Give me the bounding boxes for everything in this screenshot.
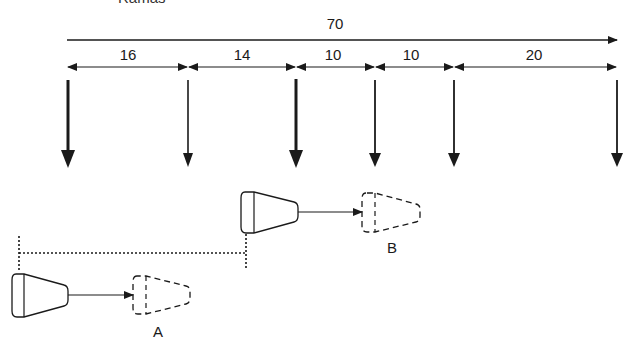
down-arrow-6 [611, 80, 623, 167]
position-a-label: A [153, 323, 163, 340]
load-arrows [61, 79, 623, 168]
down-arrow-2 [183, 80, 193, 167]
segment-label-5: 20 [526, 46, 543, 63]
segment-label-1: 16 [120, 46, 137, 63]
total-length-label: 70 [327, 15, 344, 32]
cup-dashed-b [362, 193, 420, 232]
cup-dashed-a [133, 276, 190, 314]
segment-label-3: 10 [325, 46, 342, 63]
segment-label-2: 14 [234, 46, 251, 63]
cup-solid-a [12, 274, 68, 317]
down-arrow-5 [448, 80, 460, 167]
cup-solid-b [241, 192, 298, 233]
down-arrow-1 [61, 80, 75, 168]
position-a [12, 274, 190, 317]
position-b [241, 192, 420, 233]
segment-label-4: 10 [403, 46, 420, 63]
down-arrow-3 [289, 79, 303, 168]
down-arrow-4 [369, 80, 381, 167]
position-b-label: B [387, 239, 397, 256]
dotted-reference [19, 234, 246, 272]
